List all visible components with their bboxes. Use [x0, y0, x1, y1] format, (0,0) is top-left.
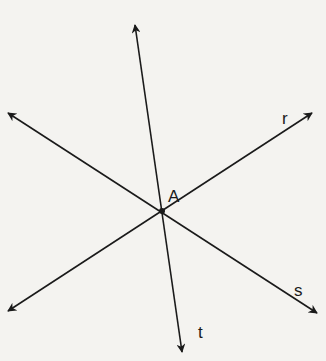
line-t-label: t	[198, 323, 203, 342]
line-r-label: r	[282, 109, 288, 128]
point-a	[159, 208, 165, 214]
point-a-label: A	[168, 187, 180, 206]
diagram-canvas: A r s t	[0, 0, 326, 361]
line-s-label: s	[294, 281, 303, 300]
